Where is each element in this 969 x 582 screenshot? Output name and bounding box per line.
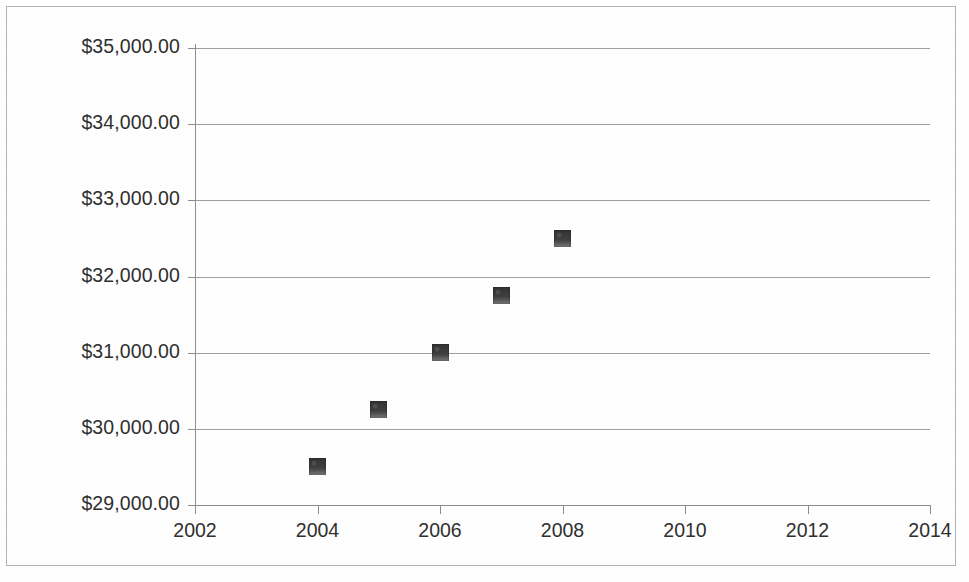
y-axis-tick-label: $30,000.00 <box>0 416 180 439</box>
plot-area <box>195 48 930 505</box>
gridline <box>195 429 930 430</box>
x-axis-tick-label: 2012 <box>753 519 863 542</box>
y-axis-tick-label: $29,000.00 <box>0 492 180 515</box>
y-axis-tick-label: $34,000.00 <box>0 111 180 134</box>
y-axis-tick-label: $31,000.00 <box>0 340 180 363</box>
data-point-marker <box>370 401 387 418</box>
y-axis-tick <box>188 200 195 201</box>
gridline <box>195 48 930 49</box>
data-point-marker <box>554 230 571 247</box>
y-axis-tick <box>188 48 195 49</box>
y-axis-tick-label: $35,000.00 <box>0 35 180 58</box>
x-axis-tick <box>563 505 564 514</box>
x-axis-tick <box>808 505 809 514</box>
x-axis-tick-label: 2006 <box>385 519 495 542</box>
y-axis-tick <box>188 353 195 354</box>
x-axis-tick <box>195 505 196 514</box>
y-axis-tick <box>188 505 195 506</box>
y-axis-tick <box>188 124 195 125</box>
x-axis-tick-label: 2014 <box>875 519 969 542</box>
data-point-marker <box>309 458 326 475</box>
x-axis-tick <box>930 505 931 514</box>
chart-figure: $29,000.00$30,000.00$31,000.00$32,000.00… <box>0 0 969 582</box>
gridline <box>195 353 930 354</box>
x-axis-tick-label: 2004 <box>263 519 373 542</box>
x-axis-tick-label: 2010 <box>630 519 740 542</box>
x-axis-tick-label: 2008 <box>508 519 618 542</box>
gridline <box>195 277 930 278</box>
y-axis-tick <box>188 429 195 430</box>
gridline <box>195 200 930 201</box>
y-axis-tick-label: $33,000.00 <box>0 187 180 210</box>
data-point-marker <box>493 287 510 304</box>
y-axis-tick <box>188 277 195 278</box>
x-axis-tick <box>685 505 686 514</box>
gridline <box>195 124 930 125</box>
x-axis-tick-label: 2002 <box>140 519 250 542</box>
x-axis-tick <box>440 505 441 514</box>
x-axis-tick <box>318 505 319 514</box>
data-point-marker <box>432 344 449 361</box>
y-axis-tick-label: $32,000.00 <box>0 264 180 287</box>
